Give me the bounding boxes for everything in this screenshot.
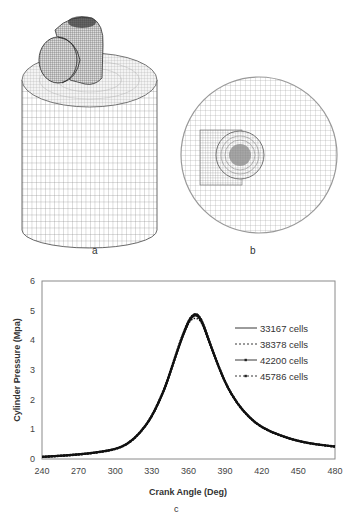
x-tick-label: 300	[108, 466, 123, 476]
x-tick-label: 240	[34, 466, 49, 476]
pressure-chart: 0123456 240270300330360390420450480 3316…	[0, 0, 358, 529]
x-tick-label: 390	[218, 466, 233, 476]
x-tick-label: 450	[291, 466, 306, 476]
y-tick-label: 2	[30, 395, 35, 405]
y-axis-title: Cylinder Pressure (Mpa)	[12, 318, 22, 422]
x-tick-label: 270	[71, 466, 86, 476]
legend-label: 38378 cells	[260, 339, 308, 350]
legend-label: 33167 cells	[260, 323, 308, 334]
y-tick-label: 4	[30, 335, 35, 345]
x-tick-label: 420	[254, 466, 269, 476]
x-tick-label: 360	[181, 466, 196, 476]
series-line	[42, 316, 335, 457]
y-tick-label: 3	[30, 365, 35, 375]
y-tick-label: 0	[30, 454, 35, 464]
series-line	[42, 314, 335, 457]
x-tick-label: 330	[144, 466, 159, 476]
legend-label: 42200 cells	[260, 355, 308, 366]
y-axis-ticks: 0123456	[30, 276, 35, 464]
data-series	[42, 314, 335, 457]
series-line	[42, 314, 335, 457]
panel-label-c: c	[174, 504, 179, 514]
y-tick-label: 5	[30, 306, 35, 316]
chart-legend: 33167 cells38378 cells42200 cells45786 c…	[235, 323, 308, 382]
legend-label: 45786 cells	[260, 371, 308, 382]
x-axis-title: Crank Angle (Deg)	[149, 487, 227, 497]
y-tick-label: 1	[30, 424, 35, 434]
y-tick-label: 6	[30, 276, 35, 286]
x-axis-ticks: 240270300330360390420450480	[34, 466, 342, 476]
x-tick-label: 480	[327, 466, 342, 476]
